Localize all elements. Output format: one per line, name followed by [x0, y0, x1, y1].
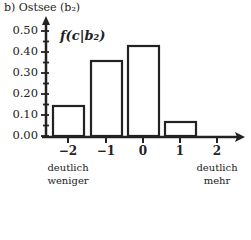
- xtick-label: 1: [170, 144, 190, 158]
- bar: [53, 106, 84, 136]
- bar: [91, 61, 122, 136]
- bar: [128, 46, 159, 136]
- xtick-label: 0: [133, 144, 153, 158]
- bar: [165, 122, 196, 136]
- annotation-deutlich-mehr: deutlich mehr: [194, 161, 240, 187]
- annotation-deutlich-weniger: deutlich weniger: [46, 161, 90, 187]
- xtick-label: −1: [96, 144, 116, 158]
- xtick-label: −2: [58, 144, 78, 158]
- xtick-label: 2: [207, 144, 227, 158]
